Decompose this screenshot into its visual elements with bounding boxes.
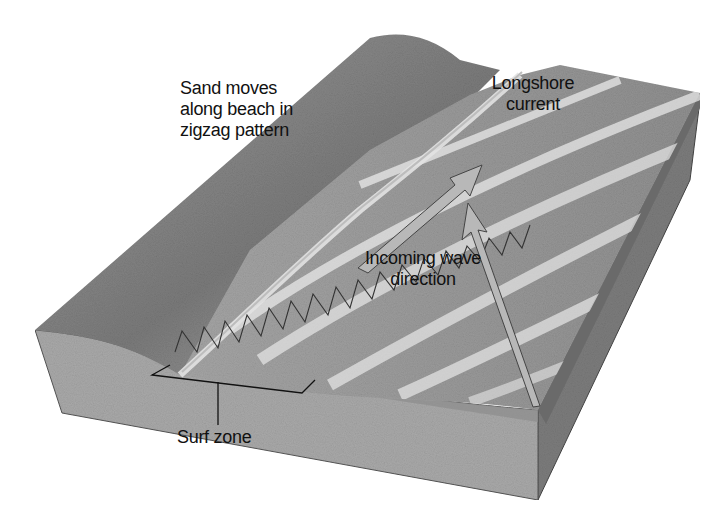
label-line: along beach in [180, 99, 293, 120]
label-sand-moves: Sand moves along beach in zigzag pattern [180, 78, 293, 141]
label-line: Longshore [478, 73, 588, 94]
label-incoming-wave-direction: Incoming wave direction [353, 248, 493, 290]
label-surf-zone: Surf zone [177, 427, 251, 448]
label-longshore-current: Longshore current [478, 73, 588, 115]
label-line: Incoming wave [353, 248, 493, 269]
label-line: zigzag pattern [180, 120, 293, 141]
label-line: current [478, 94, 588, 115]
label-line: Sand moves [180, 78, 293, 99]
label-line: direction [353, 269, 493, 290]
